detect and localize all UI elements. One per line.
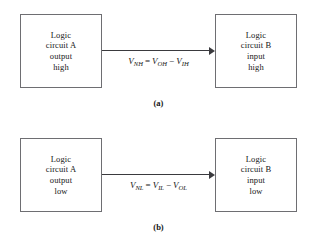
equation-equals: = — [143, 56, 152, 66]
equation-term1-subscript: IL — [158, 184, 164, 191]
logic-box-line: low — [54, 186, 67, 197]
equation-term2-subscript: IH — [182, 60, 189, 67]
diagram-a: Logic circuit A output high VNH=VOH−VIH … — [0, 0, 317, 98]
logic-box-line: Logic — [246, 154, 266, 165]
equation-operator: − — [167, 56, 176, 66]
logic-box-circuit-a-output-low: Logic circuit A output low — [20, 138, 102, 212]
figure-panel-a: Logic circuit A output high VNH=VOH−VIH … — [0, 0, 317, 124]
logic-box-circuit-b-input-low: Logic circuit B input low — [215, 138, 297, 212]
logic-box-line: Logic — [51, 154, 71, 165]
logic-box-line: high — [53, 62, 69, 73]
arrow-b — [102, 170, 215, 180]
logic-box-line: input — [247, 175, 265, 186]
figure-panel-b: Logic circuit A output low VNL=VIL−VOL L… — [0, 124, 317, 248]
logic-box-line: high — [248, 62, 264, 73]
logic-box-line: circuit B — [241, 164, 271, 175]
logic-box-line: circuit A — [46, 40, 76, 51]
equation-term1-symbol: V — [152, 56, 158, 66]
equation-term2-symbol: V — [176, 56, 182, 66]
equation-term2-subscript: OL — [179, 184, 187, 191]
equation-lhs-subscript: NL — [135, 184, 143, 191]
logic-box-line: output — [50, 51, 72, 62]
equation-lhs-subscript: NH — [134, 60, 143, 67]
arrow-shaft-icon — [102, 174, 210, 175]
logic-box-line: output — [50, 175, 72, 186]
panel-caption-b: (b) — [0, 222, 317, 232]
equation-noise-margin-high: VNH=VOH−VIH — [102, 56, 215, 66]
arrow-shaft-icon — [102, 50, 210, 51]
logic-box-line: Logic — [246, 30, 266, 41]
logic-box-line: low — [249, 186, 262, 197]
diagram-b: Logic circuit A output low VNL=VIL−VOL L… — [0, 124, 317, 222]
panel-caption-a: (a) — [0, 98, 317, 108]
equation-lhs-symbol: V — [128, 56, 134, 66]
logic-box-line: circuit A — [46, 164, 76, 175]
equation-noise-margin-low: VNL=VIL−VOL — [102, 180, 215, 190]
logic-box-line: input — [247, 51, 265, 62]
logic-box-circuit-b-input-high: Logic circuit B input high — [215, 14, 297, 88]
equation-operator: − — [164, 180, 173, 190]
equation-equals: = — [144, 180, 153, 190]
equation-term2-symbol: V — [173, 180, 179, 190]
logic-box-line: Logic — [51, 30, 71, 41]
arrow-a — [102, 46, 215, 56]
logic-box-circuit-a-output-high: Logic circuit A output high — [20, 14, 102, 88]
logic-box-line: circuit B — [241, 40, 271, 51]
equation-term1-subscript: OH — [158, 60, 168, 67]
